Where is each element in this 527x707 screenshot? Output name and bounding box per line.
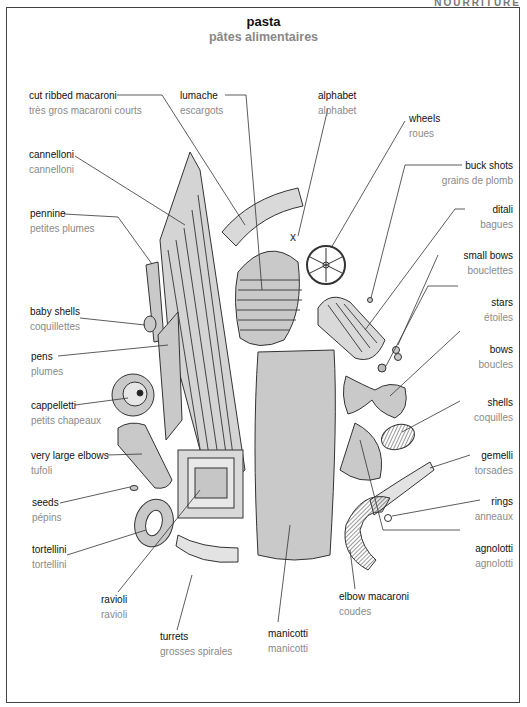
label-lumache: lumache escargots (180, 89, 223, 117)
label-en: turrets (160, 630, 232, 643)
label-fr: coudes (339, 605, 409, 618)
lumache-shape (235, 251, 302, 345)
label-cannelloni: cannelloni cannelloni (29, 148, 74, 176)
tufoli-shape (118, 423, 172, 488)
label-fr: roues (409, 127, 440, 140)
label-en: bows (479, 343, 513, 356)
baby-shells-shape (144, 316, 156, 332)
label-fr: grosses spirales (160, 645, 232, 658)
label-en: ravioli (101, 593, 127, 606)
label-fr: tufoli (31, 464, 109, 477)
label-pens: pens plumes (31, 350, 63, 378)
label-en: ditali (480, 203, 513, 216)
ravioli-shape (178, 450, 243, 518)
label-ditali: ditali bagues (480, 203, 513, 231)
label-turrets: turrets grosses spirales (160, 630, 232, 658)
rings-shape (385, 515, 392, 522)
label-en: cut ribbed macaroni (29, 89, 142, 102)
label-fr: petits chapeaux (31, 414, 101, 427)
label-wheels: wheels roues (409, 112, 440, 140)
label-shells: shells coquilles (474, 396, 513, 424)
label-seeds: seeds pépins (32, 496, 61, 524)
pens-shape (158, 312, 182, 440)
label-fr: boucles (479, 358, 513, 371)
manicotti-shape (255, 350, 335, 560)
label-fr: grains de plomb (442, 174, 513, 187)
label-cut-ribbed-macaroni: cut ribbed macaroni très gros macaroni c… (29, 89, 142, 117)
label-en: small bows (464, 249, 513, 262)
shells-shape (378, 420, 418, 454)
label-en: baby shells (30, 305, 80, 318)
label-fr: étoiles (484, 311, 513, 324)
label-en: gemelli (475, 449, 513, 462)
label-en: pens (31, 350, 63, 363)
label-en: elbow macaroni (339, 590, 409, 603)
label-manicotti: manicotti manicotti (268, 627, 308, 655)
label-fr: alphabet (318, 104, 356, 117)
label-en: shells (474, 396, 513, 409)
label-en: manicotti (268, 627, 308, 640)
label-en: buck shots (442, 159, 513, 172)
tortellini-shape (129, 495, 178, 551)
label-fr: manicotti (268, 642, 308, 655)
label-en: pennine (30, 207, 94, 220)
bows-shape (343, 376, 406, 418)
label-en: seeds (32, 496, 61, 509)
label-en: cappelletti (31, 399, 101, 412)
label-en: rings (475, 495, 513, 508)
elbow-macaroni-shape (345, 497, 390, 570)
agnolotti-shape (340, 423, 382, 480)
label-en: wheels (409, 112, 440, 125)
label-gemelli: gemelli torsades (475, 449, 513, 477)
label-fr: escargots (180, 104, 223, 117)
label-fr: plumes (31, 365, 63, 378)
small-bows-shape (393, 347, 402, 361)
alphabet-shape: x (290, 230, 296, 244)
seeds-shape (130, 486, 138, 491)
label-fr: pépins (32, 511, 61, 524)
label-fr: coquilles (474, 411, 513, 424)
label-alphabet: alphabet alphabet (318, 89, 356, 117)
buck-shots-shape (368, 298, 373, 303)
stars-shape (378, 364, 386, 372)
label-fr: agnolotti (475, 557, 513, 570)
label-en: agnolotti (475, 542, 513, 555)
label-agnolotti: agnolotti agnolotti (475, 542, 513, 570)
label-rings: rings anneaux (475, 495, 513, 523)
label-en: very large elbows (31, 449, 109, 462)
label-fr: très gros macaroni courts (29, 104, 142, 117)
label-en: lumache (180, 89, 223, 102)
label-en: stars (484, 296, 513, 309)
label-small-bows: small bows bouclettes (464, 249, 513, 277)
label-buck-shots: buck shots grains de plomb (442, 159, 513, 187)
label-en: alphabet (318, 89, 356, 102)
label-en: cannelloni (29, 148, 74, 161)
label-stars: stars étoiles (484, 296, 513, 324)
label-baby-shells: baby shells coquillettes (30, 305, 80, 333)
label-fr: anneaux (475, 510, 513, 523)
label-fr: tortellini (32, 558, 66, 571)
label-fr: ravioli (101, 608, 127, 621)
label-elbow-macaroni: elbow macaroni coudes (339, 590, 409, 618)
label-tortellini: tortellini tortellini (32, 543, 66, 571)
label-cappelletti: cappelletti petits chapeaux (31, 399, 101, 427)
label-bows: bows boucles (479, 343, 513, 371)
label-fr: petites plumes (30, 222, 94, 235)
label-fr: torsades (475, 464, 513, 477)
turrets-shape (176, 535, 238, 562)
label-fr: cannelloni (29, 163, 74, 176)
label-fr: bouclettes (464, 264, 513, 277)
label-pennine: pennine petites plumes (30, 207, 94, 235)
label-en: tortellini (32, 543, 66, 556)
label-very-large-elbows: very large elbows tufoli (31, 449, 109, 477)
wheels-shape (307, 246, 345, 284)
label-ravioli: ravioli ravioli (101, 593, 127, 621)
cappelletti-shape (112, 374, 154, 416)
label-fr: coquillettes (30, 320, 80, 333)
label-fr: bagues (480, 218, 513, 231)
